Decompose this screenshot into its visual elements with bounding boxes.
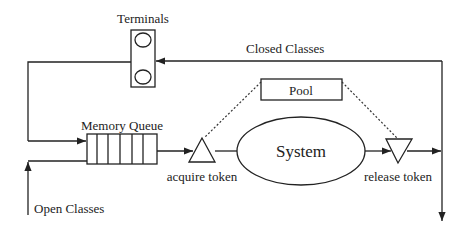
- release-token-label: release token: [364, 169, 433, 184]
- acquire-token-node: [189, 138, 215, 162]
- open-classes-label: Open Classes: [34, 201, 104, 216]
- pool-label: Pool: [289, 83, 313, 98]
- pool-release-dotted: [342, 82, 398, 139]
- pool-acquire-dotted: [204, 82, 261, 138]
- terminals-node: [131, 30, 155, 87]
- acquire-token-label: acquire token: [167, 169, 238, 184]
- memory-queue-label: Memory Queue: [81, 118, 163, 133]
- system-label: System: [276, 142, 326, 161]
- memory-queue-node: [87, 134, 157, 164]
- closed-classes-label: Closed Classes: [246, 41, 324, 56]
- diagram-canvas: Terminals Closed Classes Open Classes Me…: [0, 0, 468, 229]
- terminals-label: Terminals: [117, 11, 169, 26]
